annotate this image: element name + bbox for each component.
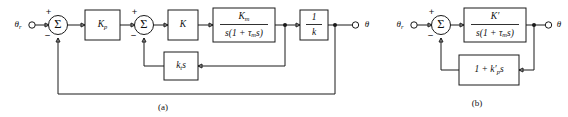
summer-1-plus-b: + <box>429 6 435 17</box>
summer-2-minus-a: − <box>131 30 137 41</box>
caption-a: (a) <box>158 102 168 112</box>
panel-a: θr Σ + − Kp Σ + − <box>15 6 370 112</box>
input-label-theta-r-a: θr <box>15 19 22 30</box>
input-terminal-a[interactable] <box>29 22 35 28</box>
summer-1-sigma-b: Σ <box>437 17 444 31</box>
wire-tach-to-summer2-a <box>144 38 164 66</box>
wire-feedback-to-summer-b <box>441 38 459 70</box>
summer-1-sigma-a: Σ <box>54 17 61 31</box>
input-terminal-b[interactable] <box>411 22 417 28</box>
summer-1-minus-a: − <box>45 30 51 41</box>
forward-tf-numerator-b: K′ <box>490 11 500 21</box>
output-terminal-a[interactable] <box>352 22 358 28</box>
one-over-k-numerator-a: 1 <box>312 12 317 22</box>
summer-1-plus-a: + <box>46 6 52 17</box>
motor-tf-denominator-a: s(1 + τms) <box>225 28 263 39</box>
summer-2-plus-a: + <box>132 6 138 17</box>
block-diagram-svg: θr Σ + − Kp Σ + − <box>0 0 568 117</box>
output-label-theta-b: θ <box>557 19 562 29</box>
block-diagram-figure: θr Σ + − Kp Σ + − <box>0 0 568 117</box>
summer-1-minus-b: − <box>428 30 434 41</box>
output-terminal-b[interactable] <box>545 22 551 28</box>
caption-b: (b) <box>472 98 483 108</box>
forward-tf-denominator-b: s(1 + τms) <box>476 28 514 39</box>
summer-2-sigma-a: Σ <box>140 17 147 31</box>
gain-k-label-a: K <box>179 19 187 29</box>
feedback-compensator-label-b: 1 + k′ps <box>474 64 503 75</box>
panel-b: θr Σ + − K′ s(1 + τms) <box>397 6 562 108</box>
input-label-theta-r-b: θr <box>397 19 404 30</box>
output-label-theta-a: θ <box>365 19 370 29</box>
